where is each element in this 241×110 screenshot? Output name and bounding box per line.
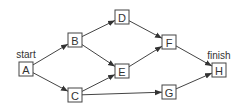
edge-c-g-arrow-icon xyxy=(82,92,162,95)
node-e: E xyxy=(115,64,129,78)
node-label: A xyxy=(22,64,30,76)
edge-e-f-arrow-icon xyxy=(129,46,162,66)
node-label: C xyxy=(71,90,79,102)
node-h: H xyxy=(212,63,226,77)
node-g: G xyxy=(162,85,176,99)
node-a: A xyxy=(19,62,33,76)
node-label: D xyxy=(118,12,126,24)
node-label: F xyxy=(166,37,173,49)
node-label: H xyxy=(215,65,223,77)
node-d: D xyxy=(115,10,129,24)
node-label: B xyxy=(71,35,78,47)
edge-a-c-arrow-icon xyxy=(33,73,68,92)
start-label: start xyxy=(16,49,36,60)
network-diagram: ABCDEFGH start finish xyxy=(0,0,241,110)
edge-c-e-arrow-icon xyxy=(82,75,115,92)
node-label: G xyxy=(165,87,174,99)
finish-label: finish xyxy=(207,50,230,61)
node-f: F xyxy=(162,35,176,49)
edges-group xyxy=(33,20,212,94)
edge-d-f-arrow-icon xyxy=(129,21,162,39)
edge-g-h-arrow-icon xyxy=(176,73,212,89)
node-c: C xyxy=(68,88,82,102)
edge-b-d-arrow-icon xyxy=(82,20,115,36)
node-b: B xyxy=(68,33,82,47)
edge-a-b-arrow-icon xyxy=(33,44,68,65)
edge-b-e-arrow-icon xyxy=(82,45,115,67)
node-label: E xyxy=(118,66,125,78)
